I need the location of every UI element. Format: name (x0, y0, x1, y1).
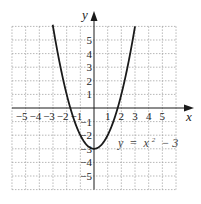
x-tick-label: −2 (57, 110, 69, 122)
y-tick-label: 3 (87, 61, 93, 73)
x-tick-label: −3 (43, 110, 55, 122)
x-axis-label: x (185, 109, 192, 124)
y-axis-arrow-icon (91, 11, 98, 21)
x-tick-label: −4 (29, 110, 41, 122)
parabola-chart: −5−4−3−2−11234554321−1−2−3−4−5 x y y = x… (0, 0, 201, 204)
y-tick-label: −4 (80, 156, 92, 168)
y-tick-label: 2 (87, 75, 93, 87)
y-tick-label: 5 (87, 34, 93, 46)
equation-annotation: y = x 2 − 3 (117, 131, 178, 150)
x-tick-label: 4 (146, 110, 152, 122)
y-axis-label: y (80, 7, 88, 22)
x-tick-label: 3 (132, 110, 138, 122)
x-tick-label: −5 (16, 110, 28, 122)
x-tick-label: 1 (105, 110, 111, 122)
y-tick-label: 1 (87, 88, 93, 100)
x-tick-label: 5 (160, 110, 166, 122)
y-tick-label: −1 (80, 116, 92, 128)
x-tick-label: 2 (119, 110, 125, 122)
y-tick-label: −5 (80, 170, 92, 182)
y-tick-label: 4 (87, 48, 93, 60)
